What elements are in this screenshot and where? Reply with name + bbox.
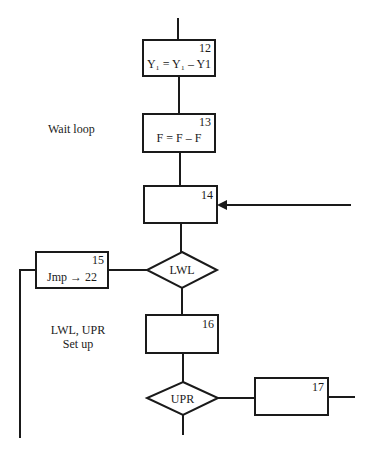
box-12-text: Y₁ = Y₁ – Y1 — [143, 57, 215, 71]
box-16-number: 16 — [146, 317, 214, 332]
annotation-setup-line2: Set up — [40, 337, 116, 351]
box-15-number: 15 — [36, 253, 104, 268]
decision-upr-label: UPR — [147, 392, 218, 406]
decision-lwl-label: LWL — [147, 263, 217, 277]
edge-15-exit-down — [20, 270, 36, 438]
box-12-number: 12 — [143, 41, 211, 56]
box-13-number: 13 — [143, 115, 211, 130]
annotation-wait-loop: Wait loop — [48, 122, 95, 136]
box-17-number: 17 — [255, 380, 324, 395]
box-13-text: F = F – F — [143, 131, 215, 145]
annotation-setup-line1: LWL, UPR — [40, 323, 116, 337]
arrowhead-icon — [217, 200, 227, 210]
box-14-number: 14 — [144, 188, 213, 203]
box-15-text: Jmp → 22 — [36, 270, 108, 284]
